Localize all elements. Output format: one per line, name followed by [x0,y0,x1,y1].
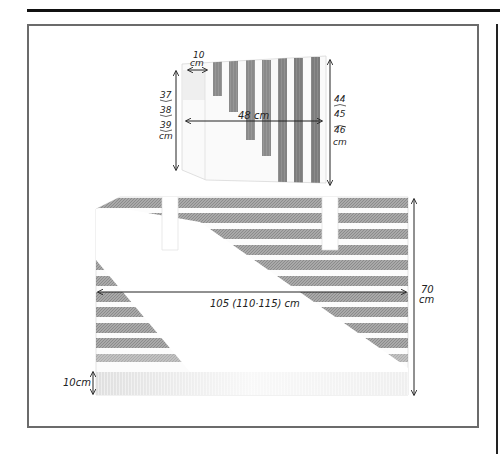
sleeve-width-label: 48 cm [238,110,269,121]
sleeve-left-height-2: 38 [160,105,172,115]
knitting-schematic: 10 cm 48 cm 37 38 39 cm 44 45 46 cm [0,0,500,454]
sleeve-left-height-1: 37 [160,90,172,100]
sleeve-left-height-3: 39 [160,120,172,130]
body-piece: 105 (110·115) cm 70 cm 10cm [63,196,434,395]
rib-height-label: 10cm [63,377,91,388]
sleeve-right-height-2: 45 [334,109,346,119]
sleeve-piece: 10 cm 48 cm 37 38 39 cm 44 45 46 cm [159,50,347,190]
sleeve-right-height-1: 44 [334,94,346,104]
sleeve-left-height-unit: cm [159,131,173,141]
sleeve-right-height-unit: cm [333,137,347,147]
body-width-label: 105 (110·115) cm [210,298,300,309]
sleeve-stripes [182,57,320,190]
body-height-unit: cm [419,294,434,305]
sleeve-cuff-unit: cm [190,58,204,68]
